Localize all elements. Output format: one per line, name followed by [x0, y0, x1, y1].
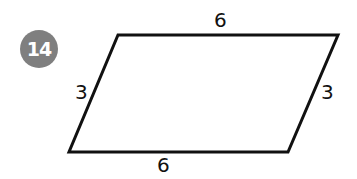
side-label-top: 6: [214, 10, 227, 30]
parallelogram-figure: [0, 0, 357, 179]
problem-canvas: 14 6 6 3 3: [0, 0, 357, 179]
side-label-right: 3: [321, 82, 334, 102]
parallelogram-shape: [69, 35, 338, 152]
side-label-left: 3: [75, 82, 88, 102]
side-label-bottom: 6: [157, 155, 170, 175]
